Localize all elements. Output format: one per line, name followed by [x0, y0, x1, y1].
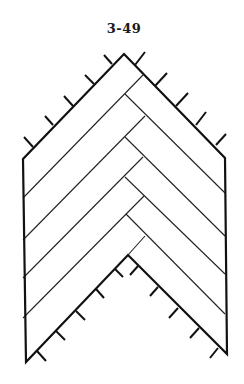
edge-tick [37, 351, 46, 361]
edge-tick [210, 348, 218, 358]
edge-tick [85, 75, 94, 84]
edge-tick [96, 289, 104, 298]
board-line [125, 137, 225, 236]
edge-tick [196, 112, 206, 125]
edge-tick [135, 52, 145, 65]
edge-tick [155, 73, 167, 86]
edge-tick [169, 308, 178, 318]
board-line [126, 214, 225, 314]
edge-tick [56, 331, 65, 340]
edge-tick [216, 134, 226, 145]
board-line [125, 177, 225, 274]
edge-tick [45, 116, 53, 125]
edge-tick [150, 287, 158, 296]
edge-tick [176, 93, 188, 106]
board-line [128, 236, 145, 255]
edge-tick [76, 311, 85, 320]
edge-tick [64, 96, 73, 106]
edge-tick [130, 266, 138, 275]
board-lines [23, 75, 225, 318]
edge-tick [115, 269, 123, 277]
board-line [23, 157, 143, 278]
edge-tick [190, 328, 199, 338]
herringbone-diagram [0, 0, 244, 384]
edge-tick [104, 55, 112, 64]
edge-tick [24, 137, 33, 147]
